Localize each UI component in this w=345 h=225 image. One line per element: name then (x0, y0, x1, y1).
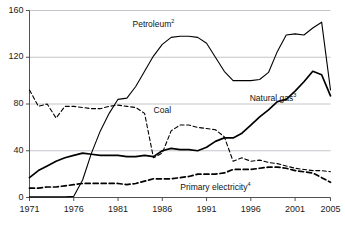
series-footnote-marker: 2 (171, 18, 174, 24)
series-label-petroleum: Petroleum2 (133, 20, 175, 29)
series-footnote-marker: 3 (293, 92, 296, 98)
series-line-natural-gas (30, 71, 331, 177)
y-axis-label: 160 (0, 6, 24, 15)
series-name: Coal (154, 105, 171, 115)
x-axis-label: 2001 (275, 205, 315, 214)
series-lines (30, 22, 331, 197)
gridlines (30, 11, 331, 151)
series-name: Natural gas (250, 93, 293, 103)
x-axis-label: 2005 (311, 205, 345, 214)
y-axis-label: 120 (0, 52, 24, 61)
series-name: Primary electricity (180, 182, 247, 192)
series-label-coal: Coal (154, 106, 171, 115)
tick-marks (26, 11, 331, 202)
series-line-petroleum (30, 22, 331, 197)
x-axis-label: 1996 (231, 205, 271, 214)
y-axis-label: 0 (0, 193, 24, 202)
series-label-natural-gas: Natural gas3 (250, 94, 297, 103)
x-axis-label: 1981 (98, 205, 138, 214)
x-axis-label: 1991 (187, 205, 227, 214)
x-axis-label: 1971 (10, 205, 50, 214)
series-label-primary-electricity: Primary electricity4 (180, 183, 250, 192)
series-footnote-marker: 4 (247, 181, 250, 187)
x-axis-label: 1986 (142, 205, 182, 214)
x-axis-label: 1976 (54, 205, 94, 214)
series-name: Petroleum (133, 19, 172, 29)
y-axis-label: 40 (0, 146, 24, 155)
y-axis-label: 80 (0, 99, 24, 108)
